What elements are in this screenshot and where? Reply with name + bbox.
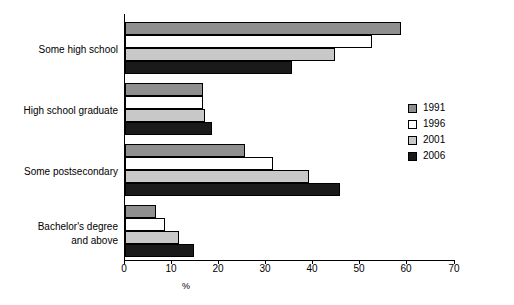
bar-1991-bachelors-degree	[125, 205, 156, 218]
bar-2001-bachelors-degree	[125, 231, 179, 244]
bar-1996-high-school-graduate	[125, 96, 203, 109]
bar-2001-some-high-school	[125, 48, 335, 61]
category-label-bachelors-degree-line2: and above	[71, 235, 118, 247]
category-label-some-high-school: Some high school	[39, 44, 119, 56]
bar-1991-some-high-school	[125, 22, 401, 35]
bar-2006-high-school-graduate	[125, 122, 212, 135]
legend-label-1996: 1996	[423, 119, 445, 129]
bar-chart: Some high school High school graduate So…	[0, 0, 514, 305]
bar-2006-some-postsecondary	[125, 183, 340, 196]
bar-1996-some-postsecondary	[125, 157, 273, 170]
legend: 1991 1996 2001 2006	[408, 100, 445, 164]
category-label-high-school-graduate: High school graduate	[23, 105, 118, 117]
legend-item-1991: 1991	[408, 100, 445, 116]
bar-1991-some-postsecondary	[125, 144, 245, 157]
bar-2001-high-school-graduate	[125, 109, 205, 122]
bar-1996-bachelors-degree	[125, 218, 165, 231]
category-label-bachelors-degree-line1: Bachelor's degree	[38, 221, 118, 233]
xtick-label-70: 70	[439, 263, 469, 274]
legend-item-2001: 2001	[408, 132, 445, 148]
xtick-label-10: 10	[156, 263, 186, 274]
legend-label-2001: 2001	[423, 135, 445, 145]
legend-label-2006: 2006	[423, 151, 445, 161]
xtick-label-40: 40	[297, 263, 327, 274]
xtick-label-20: 20	[203, 263, 233, 274]
category-label-some-postsecondary: Some postsecondary	[24, 166, 118, 178]
xtick-label-30: 30	[250, 263, 280, 274]
legend-item-2006: 2006	[408, 148, 445, 164]
bar-1996-some-high-school	[125, 35, 372, 48]
bar-1991-high-school-graduate	[125, 83, 203, 96]
xtick-label-60: 60	[391, 263, 421, 274]
bar-2006-bachelors-degree	[125, 244, 194, 257]
bar-2006-some-high-school	[125, 61, 292, 74]
legend-swatch-1991	[408, 104, 417, 113]
legend-item-1996: 1996	[408, 116, 445, 132]
x-axis-title: %	[166, 281, 206, 291]
legend-swatch-2001	[408, 136, 417, 145]
xtick-label-50: 50	[344, 263, 374, 274]
legend-swatch-2006	[408, 152, 417, 161]
xtick-label-0: 0	[109, 263, 139, 274]
plot-area	[124, 14, 455, 261]
legend-swatch-1996	[408, 120, 417, 129]
legend-label-1991: 1991	[423, 103, 445, 113]
bar-2001-some-postsecondary	[125, 170, 309, 183]
